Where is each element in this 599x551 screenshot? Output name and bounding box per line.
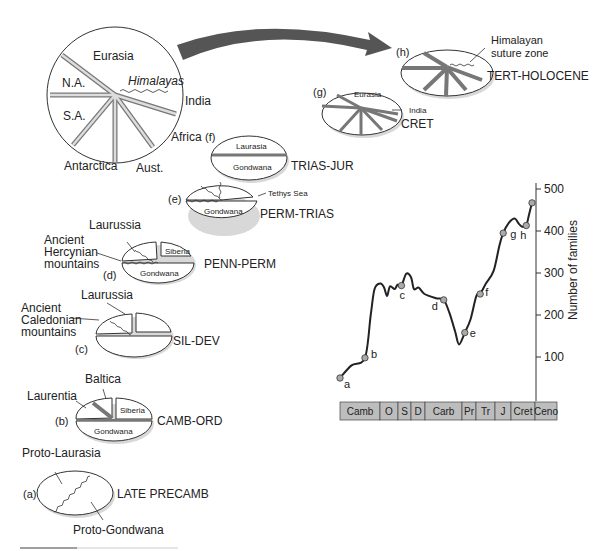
period-bar: CambOSDCarbPrTrJCretCeno (340, 402, 558, 420)
label-antarctica: Antarctica (64, 159, 118, 173)
period-label-camb: Camb (347, 406, 374, 417)
label-baltica: Baltica (85, 372, 121, 386)
period-label-pr: Pr (464, 406, 475, 417)
label-eurasia: Eurasia (93, 49, 134, 63)
label-india: India (409, 106, 427, 115)
label-himalayas: Himalayas (128, 74, 184, 88)
y-tick-label: 400 (544, 224, 564, 238)
period-label-d: D (414, 406, 421, 417)
period-label-tr: Tr (481, 406, 491, 417)
label-na: N.A. (62, 76, 85, 90)
period-label-s: S (401, 406, 408, 417)
stage-f: Laurasia Gondwana (f) TRIAS-JUR (205, 131, 354, 183)
arrow-icon (177, 29, 392, 60)
period-label-o: O (385, 406, 393, 417)
data-point-b (362, 355, 368, 361)
data-point-end (529, 200, 535, 206)
y-tick-label: 200 (544, 308, 564, 322)
stage-tag: (b) (55, 415, 68, 427)
label-laurussia: Laurussia (89, 218, 141, 232)
data-point-a (337, 375, 343, 381)
chart: 100200300400500 Number of families abcde… (337, 182, 580, 420)
label-mountains: mountains (44, 257, 99, 271)
label-himalayan: Himalayan (491, 34, 543, 46)
diagram-canvas: Eurasia N.A. Himalayas India S.A. Africa… (0, 0, 599, 551)
label-africa: Africa (171, 130, 202, 144)
period-label-ceno: Ceno (534, 406, 558, 417)
stage-tag: (g) (313, 86, 326, 98)
period-label-carb: Carb (433, 406, 455, 417)
data-label-e: e (470, 327, 476, 339)
period-label: CRET (401, 117, 434, 131)
data-point-f (477, 291, 483, 297)
data-label-b: b (371, 348, 377, 360)
label-gondwana: Gondwana (94, 427, 133, 436)
families-curve (340, 203, 532, 378)
period-label-cret: Cret (514, 406, 533, 417)
data-label-a: a (344, 378, 351, 390)
y-tick-label: 300 (544, 266, 564, 280)
label-laurasia: Laurasia (236, 142, 267, 151)
label-suture-zone: suture zone (491, 47, 548, 59)
y-ticks: 100200300400500 (536, 182, 564, 364)
period-label: PERM-TRIAS (260, 207, 334, 221)
label-gondwana: Gondwana (140, 269, 179, 278)
label-laurussia: Laurussia (81, 288, 133, 302)
data-label-f: f (485, 286, 489, 298)
stage-tag: (e) (168, 193, 181, 205)
label-aust: Aust. (136, 161, 163, 175)
data-label-d: d (432, 300, 438, 312)
label-siberia: Siberia (165, 247, 190, 256)
data-point-e (462, 329, 468, 335)
stage-c: Laurussia Ancient Caledonian mountains (… (21, 288, 220, 359)
period-label: LATE PRECAMB (117, 487, 209, 501)
data-label-c: c (399, 289, 405, 301)
stage-g: (g) Eurasia India CRET (313, 86, 434, 138)
stage-tag: (d) (103, 269, 116, 281)
data-label-h: h (520, 229, 526, 241)
period-label: PENN-PERM (204, 257, 276, 271)
data-point-d (440, 297, 446, 303)
period-label: TRIAS-JUR (291, 159, 354, 173)
y-tick-label: 100 (544, 350, 564, 364)
stage-tag: (a) (23, 488, 36, 500)
period-label-j: J (501, 406, 506, 417)
label-gondwana: Gondwana (233, 163, 272, 172)
stage-h: (h) Himalayan suture zone TERT-HOLOCENE (396, 34, 589, 99)
data-point-g (500, 230, 506, 236)
label-eurasia: Eurasia (354, 90, 382, 99)
label-proto-gondwana: Proto-Gondwana (73, 523, 164, 537)
y-axis-label: Number of families (566, 220, 580, 320)
label-tethys-sea: Tethys Sea (268, 189, 308, 198)
stage-a: Proto-Laurasia Proto-Gondwana (a) LATE P… (22, 446, 209, 537)
period-label: TERT-HOLOCENE (487, 69, 589, 83)
label-sa: S.A. (63, 109, 86, 123)
label-proto-laurasia: Proto-Laurasia (22, 446, 101, 460)
period-label: CAMB-ORD (157, 414, 223, 428)
label-siberia: Siberia (120, 406, 145, 415)
data-label-g: g (510, 228, 516, 240)
y-tick-label: 500 (544, 182, 564, 196)
label-laurentia: Laurentia (27, 389, 77, 403)
stage-e: Tethys Sea Gondwana (e) PERM-TRIAS (168, 182, 334, 236)
stage-b: Baltica Laurentia Siberia Gondwana (b) C… (27, 372, 223, 444)
period-label: SIL-DEV (173, 334, 220, 348)
stage-tag: (f) (205, 131, 215, 143)
label-gondwana: Gondwana (204, 207, 243, 216)
stage-tag: (h) (396, 46, 409, 58)
stage-tag: (c) (75, 343, 88, 355)
label-india: India (185, 94, 211, 108)
label-mountains: mountains (21, 325, 76, 339)
